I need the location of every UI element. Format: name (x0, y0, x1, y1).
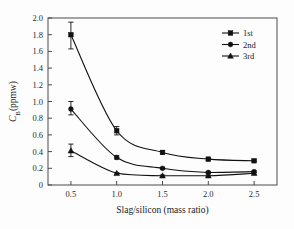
y-tick-label: 0 (39, 180, 43, 190)
y-tick-label: 1.0 (32, 97, 43, 107)
data-point-circle-marker (228, 42, 233, 47)
legend-item-2nd: 2nd (222, 40, 257, 50)
data-point-square-marker (228, 31, 233, 36)
x-tick-label: 1.0 (111, 189, 122, 199)
series-2nd (68, 102, 256, 175)
x-tick-label: 1.5 (157, 189, 168, 199)
x-tick-label: 0.5 (66, 189, 77, 199)
data-point-square-marker (69, 32, 74, 37)
series-line-2nd (71, 109, 254, 172)
data-point-square-marker (114, 128, 119, 133)
y-tick-label: 2.0 (32, 13, 43, 23)
legend-item-3rd: 3rd (222, 51, 255, 61)
x-axis-title: Slag/silicon (mass ratio) (116, 205, 208, 216)
x-tick-label: 2.0 (203, 189, 214, 199)
data-point-square-marker (252, 158, 257, 163)
y-axis-title-text: CB(ppmw) (8, 81, 21, 122)
y-tick-label: 0.6 (32, 130, 43, 140)
y-axis-title: CB(ppmw) (8, 81, 21, 122)
legend-label-3rd: 3rd (243, 51, 255, 61)
data-point-circle-marker (68, 107, 73, 112)
x-axis-ticks: 0.51.01.52.02.5 (66, 181, 260, 199)
legend-item-1st: 1st (222, 28, 254, 38)
x-tick-label: 2.5 (249, 189, 260, 199)
chart-figure: 00.20.40.60.81.01.21.41.61.82.0 0.51.01.… (0, 0, 294, 229)
chart-canvas: 00.20.40.60.81.01.21.41.61.82.0 0.51.01.… (0, 0, 294, 229)
y-tick-label: 1.2 (32, 80, 43, 90)
data-point-square-marker (206, 157, 211, 162)
data-point-circle-marker (114, 155, 119, 160)
y-tick-label: 0.8 (32, 113, 43, 123)
legend-label-2nd: 2nd (243, 40, 257, 50)
y-tick-label: 1.8 (32, 30, 43, 40)
chart-legend: 1st2nd3rd (222, 28, 257, 61)
series-line-1st (71, 35, 254, 161)
y-tick-label: 0.2 (32, 163, 43, 173)
series-3rd (68, 144, 257, 178)
data-point-square-marker (160, 150, 165, 155)
y-tick-label: 0.4 (32, 147, 43, 157)
y-tick-label: 1.6 (32, 46, 43, 56)
data-point-triangle-marker (68, 148, 74, 153)
legend-label-1st: 1st (243, 28, 254, 38)
y-tick-label: 1.4 (32, 63, 43, 73)
y-axis-ticks: 00.20.40.60.81.01.21.41.61.82.0 (32, 13, 52, 190)
data-point-circle-marker (160, 166, 165, 171)
